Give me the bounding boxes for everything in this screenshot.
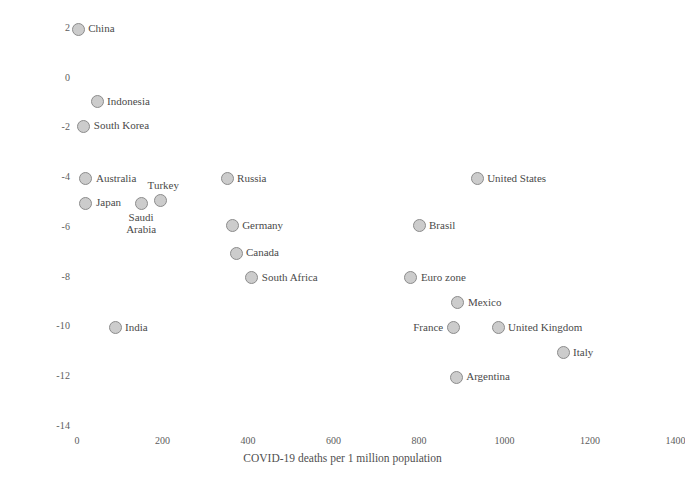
data-point-marker[interactable] bbox=[245, 271, 258, 284]
data-point-marker[interactable] bbox=[226, 219, 239, 232]
data-point-label: South Africa bbox=[262, 272, 318, 284]
y-tick-label: -10 bbox=[0, 320, 70, 331]
data-point-marker[interactable] bbox=[451, 296, 464, 309]
data-point-label: China bbox=[88, 24, 114, 36]
data-point-label: Mexico bbox=[468, 297, 502, 309]
data-point-label: SaudiArabia bbox=[126, 212, 156, 236]
plot-area: 20-2-4-6-8-10-12-14 02004006008001000120… bbox=[0, 0, 685, 482]
data-point-marker[interactable] bbox=[72, 23, 85, 36]
data-point-label: Australia bbox=[96, 173, 136, 185]
x-tick-label: 0 bbox=[75, 435, 80, 446]
data-point-marker[interactable] bbox=[404, 271, 417, 284]
data-point-marker[interactable] bbox=[450, 371, 463, 384]
data-point-marker[interactable] bbox=[471, 172, 484, 185]
data-point-label: Italy bbox=[573, 347, 593, 359]
data-point-label: Brasil bbox=[429, 220, 455, 232]
y-tick-label: -6 bbox=[0, 220, 70, 231]
data-point-marker[interactable] bbox=[221, 172, 234, 185]
x-tick-label: 600 bbox=[326, 435, 341, 446]
data-point-marker[interactable] bbox=[557, 346, 570, 359]
y-tick-label: -8 bbox=[0, 270, 70, 281]
data-point-label: Canada bbox=[246, 247, 279, 259]
data-point-label: Turkey bbox=[148, 180, 179, 192]
data-point-label: United Kingdom bbox=[508, 322, 582, 334]
data-point-marker[interactable] bbox=[79, 172, 92, 185]
data-point-marker[interactable] bbox=[413, 219, 426, 232]
data-point-marker[interactable] bbox=[77, 120, 90, 133]
data-point-label: Japan bbox=[96, 197, 121, 209]
data-point-marker[interactable] bbox=[447, 321, 460, 334]
data-point-marker[interactable] bbox=[79, 197, 92, 210]
data-point-label: Russia bbox=[237, 173, 266, 185]
y-tick-label: 0 bbox=[0, 71, 70, 82]
data-point-marker[interactable] bbox=[109, 321, 122, 334]
data-point-marker[interactable] bbox=[230, 247, 243, 260]
y-tick-label: -14 bbox=[0, 419, 70, 430]
y-tick-label: -4 bbox=[0, 171, 70, 182]
y-tick-label: -2 bbox=[0, 121, 70, 132]
data-point-marker[interactable] bbox=[154, 194, 167, 207]
x-tick-label: 800 bbox=[412, 435, 427, 446]
data-point-label: Euro zone bbox=[421, 272, 466, 284]
x-tick-label: 1400 bbox=[666, 435, 685, 446]
x-tick-label: 1000 bbox=[495, 435, 515, 446]
data-point-label: United States bbox=[487, 173, 546, 185]
data-point-label: South Korea bbox=[94, 120, 149, 132]
data-point-marker[interactable] bbox=[135, 197, 148, 210]
x-axis-title: COVID-19 deaths per 1 million population bbox=[0, 452, 685, 464]
x-tick-label: 200 bbox=[155, 435, 170, 446]
x-tick-label: 400 bbox=[241, 435, 256, 446]
data-point-marker[interactable] bbox=[492, 321, 505, 334]
x-tick-label: 1200 bbox=[580, 435, 600, 446]
data-point-label: India bbox=[125, 322, 148, 334]
data-point-label: Indonesia bbox=[107, 96, 150, 108]
data-point-marker[interactable] bbox=[91, 95, 104, 108]
data-point-label: Germany bbox=[242, 220, 283, 232]
scatter-chart-figure: 20-2-4-6-8-10-12-14 02004006008001000120… bbox=[0, 0, 685, 482]
data-point-label: Argentina bbox=[466, 371, 510, 383]
y-tick-label: -12 bbox=[0, 369, 70, 380]
y-tick-label: 2 bbox=[0, 22, 70, 33]
data-point-label: France bbox=[413, 322, 443, 334]
